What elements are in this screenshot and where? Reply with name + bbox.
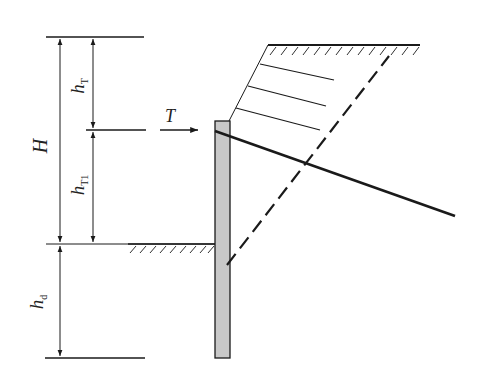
anchor-rod [215, 131, 455, 216]
label-hd: hd [26, 295, 49, 310]
label-H: H [29, 137, 51, 154]
backfill-surface [229, 45, 420, 130]
excavation-ground-hatch [128, 244, 215, 253]
retaining-wall-diagram: H hT hT1 hd T [0, 0, 486, 384]
label-hT1: hT1 [67, 175, 90, 196]
label-T: T [165, 106, 177, 126]
label-hT: hT [67, 78, 90, 94]
retaining-wall [215, 121, 230, 358]
